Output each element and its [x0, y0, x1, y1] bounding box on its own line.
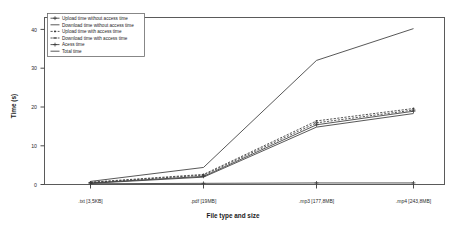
legend-label: Total time: [62, 49, 82, 54]
y-tick-label-10: 10: [31, 143, 37, 149]
x-tick-label-0: .txt [3,5KB]: [78, 198, 103, 204]
x-axis-title: File type and size: [207, 212, 260, 220]
legend-label: Download time without access time: [62, 23, 134, 28]
x-tick-label-3: .mp4 [243,8MB]: [396, 198, 432, 204]
series-marker: [413, 108, 415, 110]
y-tick-group: 0 10 20 30 40: [31, 27, 44, 188]
legend-label: Upload time with access time: [62, 29, 122, 34]
legend-label: Acess time: [62, 42, 85, 47]
y-tick-label-40: 40: [31, 27, 37, 33]
y-tick-label-20: 20: [31, 104, 37, 110]
x-tick-label-2: .mp3 [177,8MB]: [299, 198, 335, 204]
series-marker: [54, 30, 56, 32]
legend: Upload time without access timeDownload …: [48, 14, 145, 57]
y-axis: 0 10 20 30 40 Time (s): [10, 27, 45, 188]
series-1: [91, 114, 414, 184]
series-line: [91, 114, 414, 184]
x-axis: .txt [3,5KB] .pdf [19MB] .mp3 [177,8MB] …: [78, 185, 431, 221]
series-marker: [316, 120, 318, 122]
chart-figure: 0 10 20 30 40 Time (s) .txt [3,5KB] .pdf…: [0, 0, 466, 231]
x-tick-label-1: .pdf [19MB]: [191, 198, 217, 204]
line-chart-canvas: 0 10 20 30 40 Time (s) .txt [3,5KB] .pdf…: [0, 0, 466, 231]
y-tick-label-30: 30: [31, 65, 37, 71]
legend-label: Download time with access time: [62, 36, 128, 41]
series-line: [91, 183, 414, 184]
series-2: [90, 108, 415, 184]
legend-item-1: Download time without access time: [51, 23, 135, 28]
legend-item-3: Download time with access time: [51, 36, 128, 41]
y-tick-label-0: 0: [34, 182, 37, 188]
series-line: [91, 109, 414, 183]
legend-label: Upload time without access time: [62, 16, 128, 21]
legend-item-2: Upload time with access time: [51, 29, 122, 34]
y-axis-title: Time (s): [10, 94, 18, 118]
legend-item-0: Upload time without access time: [51, 16, 129, 21]
series-0: [89, 109, 416, 185]
